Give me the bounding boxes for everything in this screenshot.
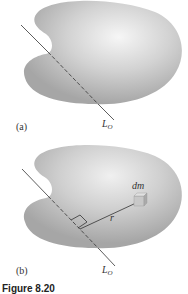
panel-a-label: (a) [16,121,27,132]
axis-label-b: LO [102,264,113,277]
rigid-body-a [24,1,182,104]
mass-element-cube [134,193,147,206]
distance-label: r [110,212,114,223]
axis-label-a: LO [102,118,113,131]
figure-caption: Figure 8.20 [2,283,55,294]
rigid-body-b [24,145,182,248]
panel-b-label: (b) [16,265,28,276]
mass-element-label: dm [132,180,144,191]
